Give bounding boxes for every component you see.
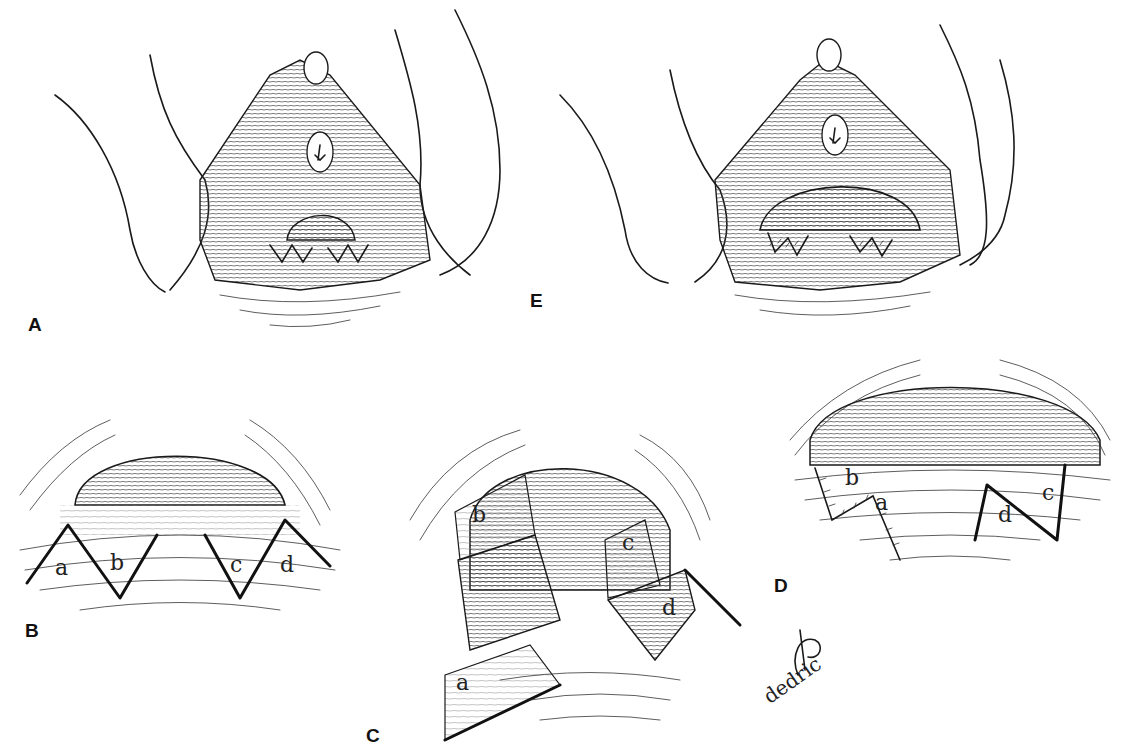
signature-flourish <box>790 625 830 685</box>
panel-e: E <box>520 0 1120 340</box>
flap-label-c: c <box>622 530 634 555</box>
panel-c: b c d a C <box>360 420 770 753</box>
flap-label-a: a <box>875 490 888 515</box>
panel-letter-e: E <box>530 290 543 312</box>
flap-label-b: b <box>845 465 859 490</box>
flap-label-d: d <box>662 595 676 620</box>
panel-letter-c: C <box>366 725 380 747</box>
flap-label-c: c <box>1042 480 1054 505</box>
panel-letter-d: D <box>774 575 788 597</box>
panel-d-illustration <box>780 340 1120 600</box>
panel-a-illustration <box>0 0 520 340</box>
panel-d: b a d c D <box>780 340 1120 600</box>
flap-label-b: b <box>472 502 486 527</box>
panel-c-illustration <box>360 420 770 753</box>
flap-label-a: a <box>55 555 68 580</box>
flap-label-d: d <box>998 502 1012 527</box>
flap-label-d: d <box>280 552 294 577</box>
panel-b-illustration <box>0 400 360 650</box>
flap-label-c: c <box>230 552 242 577</box>
panel-letter-a: A <box>28 314 42 336</box>
flap-label-a: a <box>456 670 469 695</box>
panel-b: a b c d B <box>0 400 360 650</box>
panel-e-illustration <box>520 0 1120 340</box>
panel-a: A <box>0 0 520 340</box>
flap-label-b: b <box>110 550 124 575</box>
panel-letter-b: B <box>25 620 39 642</box>
